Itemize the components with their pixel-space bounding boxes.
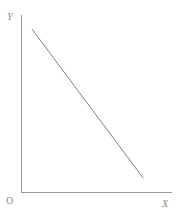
x-axis-label: X [162,199,168,209]
data-line-series-0 [32,29,143,178]
origin-label: O [6,196,13,206]
plot-area [0,0,177,216]
y-axis-label: Y [7,12,13,22]
chart-figure: Y X O [0,0,177,216]
